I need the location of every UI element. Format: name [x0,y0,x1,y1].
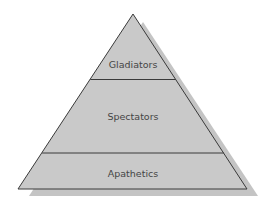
tier-label-spectators: Spectators [107,111,158,122]
tier-label-apathetics: Apathetics [108,168,159,179]
pyramid-diagram: Gladiators Spectators Apathetics [0,0,275,206]
pyramid-body [18,14,247,189]
tier-label-gladiators: Gladiators [109,59,158,70]
